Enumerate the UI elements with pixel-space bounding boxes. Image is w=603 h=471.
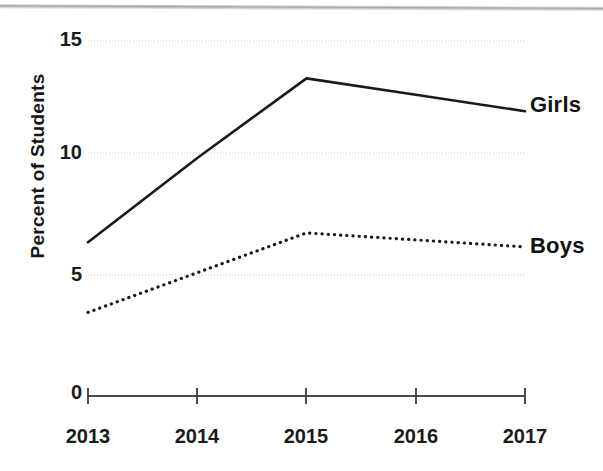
x-tick-label-2017: 2017 xyxy=(485,425,565,448)
y-tick-label-5: 5 xyxy=(36,263,82,286)
y-tick-label-10: 10 xyxy=(36,141,82,164)
chart-svg xyxy=(0,0,603,471)
x-tick-label-2016: 2016 xyxy=(376,425,456,448)
x-tick-label-2013: 2013 xyxy=(48,425,128,448)
y-axis-title: Percent of Students xyxy=(27,46,49,286)
series-label-boys: Boys xyxy=(530,233,585,259)
series-label-girls: Girls xyxy=(530,92,581,118)
chart-container: Percent of Students 15 10 5 0 2013 2014 … xyxy=(0,0,603,471)
y-tick-label-15: 15 xyxy=(36,28,82,51)
series-line-girls xyxy=(88,78,525,242)
x-tick-label-2014: 2014 xyxy=(157,425,237,448)
x-tick-label-2015: 2015 xyxy=(266,425,346,448)
y-tick-label-0: 0 xyxy=(36,381,82,404)
gridlines xyxy=(88,41,525,275)
series-line-boys xyxy=(88,233,525,313)
x-axis xyxy=(88,388,525,404)
plot-area xyxy=(0,0,603,471)
